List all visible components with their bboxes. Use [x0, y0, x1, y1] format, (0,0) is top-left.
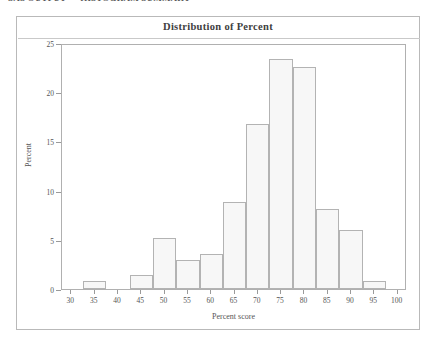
histogram-bar: [130, 275, 153, 289]
x-axis-tick: [303, 290, 304, 294]
y-axis-tick-label: 25: [47, 40, 55, 49]
x-axis-tick-label: 70: [253, 296, 261, 305]
x-axis-tick: [70, 290, 71, 294]
chart-output-panel: Distribution of Percent 0510152025 Perce…: [16, 16, 420, 330]
chart-title: Distribution of Percent: [17, 21, 419, 32]
x-axis-tick-label: 85: [323, 296, 331, 305]
x-axis: 3035404550556065707580859095100: [61, 290, 406, 330]
x-axis-tick-label: 30: [67, 296, 75, 305]
x-axis-tick: [164, 290, 165, 294]
x-axis-tick: [117, 290, 118, 294]
x-axis-tick: [187, 290, 188, 294]
y-axis-tick-label: 20: [47, 89, 55, 98]
x-axis-tick-label: 45: [137, 296, 145, 305]
histogram-bar: [293, 67, 316, 289]
x-axis-tick-label: 80: [300, 296, 308, 305]
histogram-bar: [339, 230, 362, 289]
title-divider: [18, 38, 420, 39]
x-axis-tick: [210, 290, 211, 294]
x-axis-tick-label: 50: [160, 296, 168, 305]
x-axis-tick-label: 95: [370, 296, 378, 305]
x-axis-tick: [257, 290, 258, 294]
x-axis-tick: [327, 290, 328, 294]
histogram-bar: [223, 202, 246, 289]
histogram-bar: [153, 238, 176, 289]
y-axis-tick-label: 5: [50, 236, 54, 245]
x-axis-tick-label: 60: [206, 296, 214, 305]
histogram-bar: [200, 254, 223, 289]
histogram-bar: [363, 281, 386, 289]
plot-area: [61, 44, 406, 290]
y-axis-title: Percent: [24, 143, 33, 167]
histogram-bar: [176, 260, 199, 289]
x-axis-tick: [350, 290, 351, 294]
histogram-bar: [83, 281, 106, 289]
y-axis-tick-label: 10: [47, 187, 55, 196]
x-axis-tick: [94, 290, 95, 294]
y-axis-tick-label: 15: [47, 138, 55, 147]
x-axis-tick-label: 55: [183, 296, 191, 305]
histogram-bar: [269, 59, 292, 289]
x-axis-tick-label: 35: [90, 296, 98, 305]
histogram-bar: [246, 124, 269, 289]
x-axis-tick-label: 75: [276, 296, 284, 305]
histogram-bars: [62, 45, 405, 289]
x-axis-tick: [140, 290, 141, 294]
y-axis: 0510152025: [17, 44, 61, 290]
x-axis-title: Percent score: [61, 312, 406, 321]
clipped-page-header: SAS OUTPUT — HISTOGRAM SUMMARY: [8, 0, 190, 3]
x-axis-tick: [373, 290, 374, 294]
x-axis-tick-label: 65: [230, 296, 238, 305]
x-axis-tick-label: 40: [113, 296, 121, 305]
x-axis-tick-label: 100: [391, 296, 402, 305]
x-axis-tick: [397, 290, 398, 294]
y-axis-tick-label: 0: [50, 286, 54, 295]
x-axis-tick: [234, 290, 235, 294]
x-axis-tick-label: 90: [346, 296, 354, 305]
x-axis-tick: [280, 290, 281, 294]
histogram-bar: [316, 209, 339, 289]
